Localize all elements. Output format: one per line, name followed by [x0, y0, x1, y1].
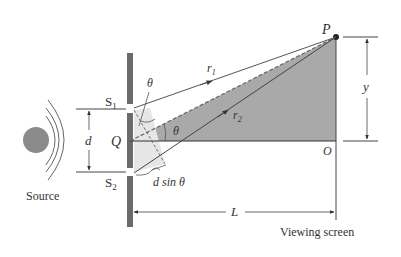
- label-p: P: [321, 22, 331, 37]
- double-slit-diagram: S1 S2 Q d θ θ r1 r2 P y O L d sin θ Sour…: [0, 0, 401, 257]
- label-s1: S1: [105, 94, 117, 111]
- barrier-bottom: [127, 176, 133, 227]
- label-r1: r1: [207, 61, 216, 77]
- label-o: O: [323, 144, 332, 158]
- barrier-top: [127, 53, 133, 104]
- label-theta-mid: θ: [173, 124, 179, 138]
- label-q: Q: [111, 134, 121, 149]
- label-d: d: [85, 133, 92, 148]
- label-dsintheta: d sin θ: [153, 175, 185, 189]
- label-s2: S2: [105, 175, 117, 192]
- source-ball: [23, 127, 49, 153]
- label-source: Source: [26, 189, 59, 203]
- label-L: L: [230, 204, 238, 219]
- label-theta-top: θ: [147, 76, 153, 90]
- label-viewing-screen: Viewing screen: [280, 225, 354, 239]
- wave-3: [48, 100, 64, 180]
- label-y: y: [361, 79, 369, 94]
